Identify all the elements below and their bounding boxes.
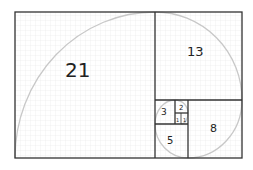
label-5: 5 bbox=[167, 135, 173, 146]
label-3: 3 bbox=[161, 107, 167, 117]
label-1b: 1 bbox=[183, 117, 186, 123]
fibonacci-diagram: 21 13 8 5 3 2 1 1 bbox=[0, 0, 253, 170]
grid-background bbox=[15, 12, 242, 158]
label-13: 13 bbox=[187, 44, 204, 59]
label-1a: 1 bbox=[176, 117, 179, 123]
label-21: 21 bbox=[65, 58, 90, 82]
label-8: 8 bbox=[210, 122, 217, 135]
label-2: 2 bbox=[179, 104, 183, 112]
